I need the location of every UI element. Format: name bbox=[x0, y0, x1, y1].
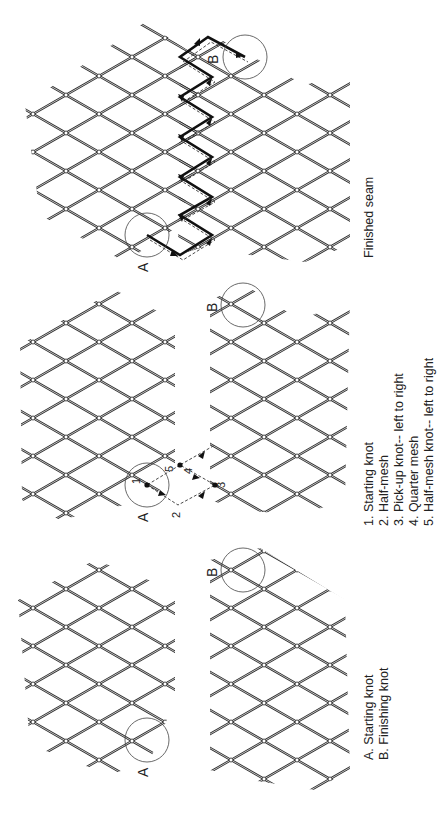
step-dot-5 bbox=[177, 462, 182, 467]
legend-knots: A. Starting knot B. Finishing knot bbox=[362, 668, 392, 760]
marker-label-b: B bbox=[204, 568, 220, 577]
step-dot-1 bbox=[144, 482, 149, 487]
legend-item-2: 2. Half-mesh bbox=[377, 358, 392, 526]
step-number-1: 1 bbox=[130, 478, 142, 484]
legend-item-5: 5. Half-mesh knot-- left to right bbox=[422, 358, 437, 526]
figure-panels-before-joining: A B bbox=[18, 548, 350, 790]
marker-label-b: B bbox=[205, 55, 221, 64]
marker-label-a: A bbox=[135, 262, 151, 272]
marker-label-a: A bbox=[135, 512, 151, 522]
net-panel-middle-lower bbox=[210, 285, 350, 515]
net-panel-middle-upper bbox=[20, 290, 175, 520]
legend-item-1: 1. Starting knot bbox=[362, 358, 377, 526]
marker-label-b: B bbox=[204, 303, 220, 312]
figure-finished-seam: A B bbox=[25, 22, 350, 272]
net-panel-upper-left bbox=[25, 22, 200, 262]
figure-seam-steps: A B 1 2 3 4 5 bbox=[20, 283, 350, 522]
net-panel-lower-upper bbox=[18, 560, 175, 775]
legend-item-b: B. Finishing knot bbox=[377, 668, 392, 760]
legend-item-a: A. Starting knot bbox=[362, 668, 377, 760]
net-panel-lower-lower bbox=[210, 548, 350, 790]
caption-finished-seam: Finished seam bbox=[362, 177, 377, 258]
caption-text: Finished seam bbox=[362, 177, 377, 258]
legend-item-4: 4. Quarter mesh bbox=[407, 358, 422, 526]
step-number-2: 2 bbox=[170, 512, 182, 518]
net-panel-upper-right bbox=[178, 35, 350, 262]
legend-seam-steps: 1. Starting knot 2. Half-mesh 3. Pick-up… bbox=[362, 358, 437, 526]
marker-label-a: A bbox=[135, 767, 151, 777]
step-number-5: 5 bbox=[163, 466, 175, 472]
step-number-4: 4 bbox=[182, 468, 194, 474]
legend-item-3: 3. Pick-up knot-- left to right bbox=[392, 358, 407, 526]
step-number-3: 3 bbox=[215, 482, 227, 488]
